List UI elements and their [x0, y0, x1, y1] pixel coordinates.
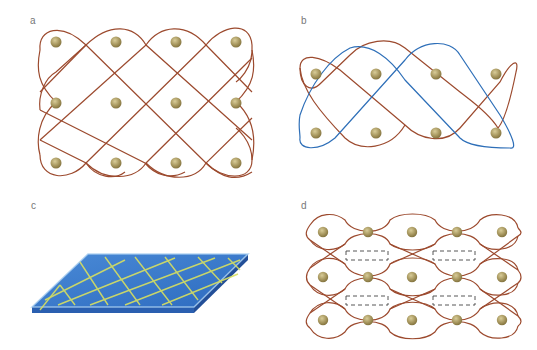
sphere	[363, 272, 373, 282]
blue-loop	[299, 44, 514, 149]
sphere-grid-a	[51, 37, 242, 169]
sphere	[497, 227, 507, 237]
sphere	[431, 128, 442, 139]
sphere	[171, 37, 182, 48]
sphere	[452, 227, 462, 237]
sphere	[363, 315, 373, 325]
sphere	[363, 227, 373, 237]
sphere	[371, 69, 382, 80]
sphere	[111, 98, 122, 109]
sphere	[311, 128, 322, 139]
sphere	[407, 227, 417, 237]
dashed-box	[433, 296, 475, 305]
sphere	[452, 315, 462, 325]
sphere	[171, 98, 182, 109]
sphere	[231, 37, 242, 48]
panel-a	[38, 28, 253, 177]
sphere	[231, 98, 242, 109]
sphere	[452, 272, 462, 282]
slab-front-face	[32, 307, 194, 313]
sphere	[231, 158, 242, 169]
sphere	[111, 158, 122, 169]
panel-d	[306, 214, 521, 339]
brown-loops	[38, 28, 253, 177]
sphere	[431, 69, 442, 80]
sphere	[171, 158, 182, 169]
sphere	[407, 315, 417, 325]
sphere	[111, 37, 122, 48]
sphere	[407, 272, 417, 282]
figure-canvas	[0, 0, 537, 350]
panel-b	[299, 41, 517, 148]
sphere	[51, 158, 62, 169]
sphere	[318, 227, 328, 237]
sphere	[311, 69, 322, 80]
sphere-grid-b	[311, 69, 502, 139]
sphere	[371, 128, 382, 139]
sphere	[497, 272, 507, 282]
sphere	[491, 69, 502, 80]
dashed-box	[433, 251, 475, 260]
dashed-box	[346, 296, 388, 305]
sphere	[51, 98, 62, 109]
sphere	[491, 128, 502, 139]
panel-c	[32, 254, 248, 313]
sphere	[318, 272, 328, 282]
dashed-box	[346, 251, 388, 260]
sphere	[51, 37, 62, 48]
sphere	[497, 315, 507, 325]
sphere	[318, 315, 328, 325]
